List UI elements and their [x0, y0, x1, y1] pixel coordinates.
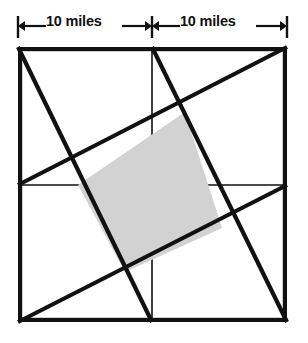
- dimension-label-right: 10 miles: [180, 14, 236, 29]
- geometry-diagram: [0, 0, 308, 343]
- shaded-quadrilateral: [78, 112, 222, 272]
- dimension-label-left: 10 miles: [46, 14, 102, 29]
- diagram-root: 10 miles 10 miles: [0, 0, 308, 343]
